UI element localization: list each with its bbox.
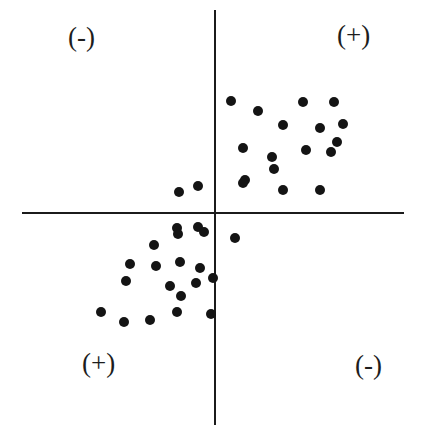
data-point [338, 119, 348, 129]
quadrant-label-lower-right: (-) [355, 352, 382, 379]
data-point [125, 259, 135, 269]
quadrant-label-upper-right: (+) [337, 22, 370, 49]
data-point [206, 309, 216, 319]
data-point [298, 97, 308, 107]
data-point [96, 307, 106, 317]
data-point [175, 257, 185, 267]
data-point [149, 240, 159, 250]
data-point [301, 145, 311, 155]
data-point [119, 317, 129, 327]
data-point [121, 276, 131, 286]
data-point [332, 137, 342, 147]
quadrant-label-upper-left: (-) [68, 24, 95, 51]
data-point [329, 97, 339, 107]
quadrant-label-lower-left: (+) [82, 350, 115, 377]
data-point [238, 178, 248, 188]
data-point [199, 227, 209, 237]
scatter-plot-figure: (-) (+) (+) (-) [0, 0, 425, 432]
data-point [176, 291, 186, 301]
data-point [151, 261, 161, 271]
data-point [173, 229, 183, 239]
data-point [278, 185, 288, 195]
data-point [193, 181, 203, 191]
data-point [195, 263, 205, 273]
data-point [238, 143, 248, 153]
data-point [267, 152, 277, 162]
data-point [208, 273, 218, 283]
data-point [315, 123, 325, 133]
data-point [253, 106, 263, 116]
data-point [172, 307, 182, 317]
data-point [145, 315, 155, 325]
data-point [326, 147, 336, 157]
data-point [191, 278, 201, 288]
data-point [174, 187, 184, 197]
data-point [165, 281, 175, 291]
data-point [278, 120, 288, 130]
data-point [315, 185, 325, 195]
data-point [269, 164, 279, 174]
data-point [226, 96, 236, 106]
data-point [230, 233, 240, 243]
